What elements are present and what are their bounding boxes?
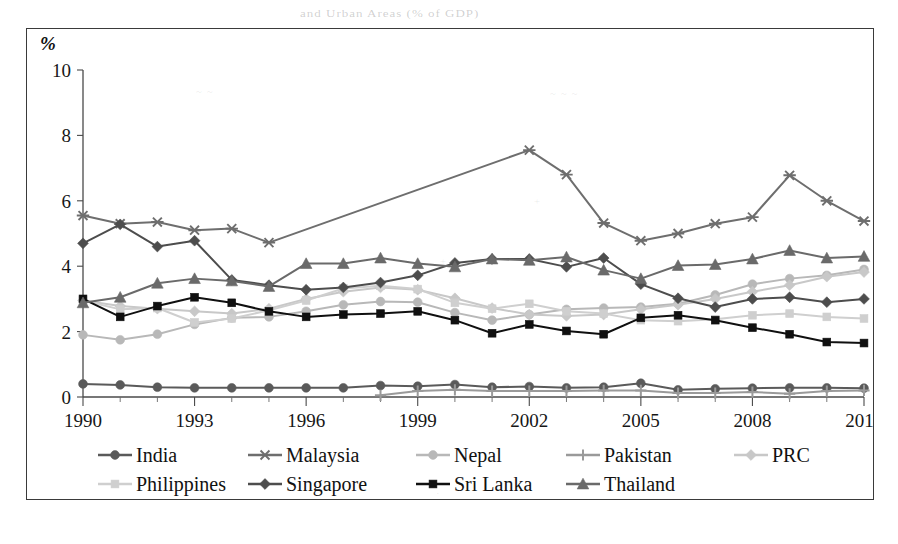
legend-item-prc[interactable]: PRC [732,445,852,465]
data-point-square-marker [228,299,236,307]
data-point-square-marker [116,313,124,321]
data-point-square-marker [711,316,719,324]
data-point-square-marker [674,311,682,319]
data-point-square-marker [153,302,161,310]
data-point-diamond-marker [412,270,423,281]
data-point-plus-marker [635,385,646,396]
data-point-asterisk-marker [226,224,238,233]
y-tick-label: 0 [62,387,72,408]
legend-item-singapore[interactable]: Singapore [246,474,414,494]
legend-label: Sri Lanka [454,474,532,494]
data-point-asterisk-marker [746,213,758,222]
x-tick-label: 1993 [176,410,214,431]
legend-item-pakistan[interactable]: Pakistan [564,445,732,465]
legend-row: PhilippinesSingaporeSri LankaThailand [96,469,856,498]
data-point-square-marker [860,339,868,347]
data-point-asterisk-marker [783,171,795,180]
data-point-square-marker [563,307,571,315]
data-point-circle-marker [116,381,125,390]
data-point-circle-marker [376,297,385,306]
data-point-square-marker [488,329,496,337]
bleed-through-text-top: and Urban Areas (% of GDP) [300,7,479,21]
series-pakistan [375,384,870,401]
data-point-asterisk-marker [188,226,200,235]
line-chart: 0246810 19901993199619992002200520082011… [26,28,874,500]
legend-swatch-square-icon [96,475,134,493]
data-point-square-marker [451,316,459,324]
data-point-plus-marker [375,390,386,401]
data-point-diamond-marker [561,261,572,272]
y-axis: 0246810 [52,60,83,408]
data-point-circle-marker [488,316,497,325]
legend-swatch-square-icon [414,475,452,493]
data-point-square-marker [339,311,347,319]
data-point-square-marker [116,305,124,313]
data-point-diamond-marker [746,449,757,460]
data-point-square-marker [488,305,496,313]
data-point-asterisk-marker [709,219,721,228]
chart-legend: IndiaMalaysiaNepalPakistanPRCPhilippines… [96,440,856,498]
data-point-square-marker [302,297,310,305]
data-point-diamond-marker [784,292,795,303]
legend-item-india[interactable]: India [96,445,246,465]
legend-swatch-triangle-icon [564,475,602,493]
legend-label: Malaysia [286,445,359,465]
legend-item-nepal[interactable]: Nepal [414,445,564,465]
data-point-diamond-marker [301,284,312,295]
data-point-triangle-marker [784,245,796,256]
data-point-square-marker [749,311,757,319]
x-tick-label: 1990 [64,410,102,431]
data-point-circle-marker [190,383,199,392]
data-point-asterisk-marker [672,229,684,238]
x-tick-label: 1996 [287,410,325,431]
data-point-square-marker [191,319,199,327]
data-point-square-marker [823,313,831,321]
data-point-square-marker [600,310,608,318]
data-point-circle-marker [376,381,385,390]
x-axis: 19901993199619992002200520082011 [64,397,874,431]
data-point-circle-marker [265,383,274,392]
data-point-circle-marker [227,383,236,392]
x-tick-label: 2008 [733,410,771,431]
data-point-square-marker [786,310,794,318]
legend-label: PRC [772,445,810,465]
data-point-circle-marker [153,330,162,339]
legend-item-malaysia[interactable]: Malaysia [246,445,414,465]
data-point-square-marker [265,307,273,315]
y-tick-label: 8 [62,125,72,146]
series-layer [77,146,870,401]
data-point-square-marker [451,299,459,307]
data-point-diamond-marker [747,294,758,305]
data-point-circle-marker [339,383,348,392]
legend-label: Philippines [136,474,226,494]
legend-item-thailand[interactable]: Thailand [564,474,732,494]
data-point-asterisk-marker [263,238,275,247]
data-point-square-marker [786,330,794,338]
legend-item-sri-lanka[interactable]: Sri Lanka [414,474,564,494]
legend-item-philippines[interactable]: Philippines [96,474,246,494]
legend-label: India [136,445,177,465]
y-tick-label: 6 [62,191,72,212]
data-point-square-marker [749,324,757,332]
y-tick-label: 2 [62,322,72,343]
data-point-diamond-marker [524,309,535,320]
data-point-circle-marker [79,330,88,339]
data-point-square-marker [302,313,310,321]
data-point-asterisk-marker [151,218,163,227]
data-point-asterisk-marker [635,236,647,245]
y-tick-label: 10 [52,60,71,81]
data-point-square-marker [111,480,119,488]
data-point-asterisk-marker [821,196,833,205]
data-point-diamond-marker [260,478,271,489]
x-tick-label: 2002 [510,410,548,431]
data-point-circle-marker [413,298,422,307]
data-point-square-marker [525,321,533,329]
legend-swatch-asterisk-icon [246,446,284,464]
data-point-circle-marker [111,450,120,459]
data-point-diamond-marker [710,302,721,313]
legend-row: IndiaMalaysiaNepalPakistanPRC [96,440,856,469]
legend-swatch-diamond-icon [732,446,770,464]
data-point-square-marker [191,293,199,301]
legend-label: Thailand [604,474,675,494]
legend-label: Singapore [286,474,367,494]
